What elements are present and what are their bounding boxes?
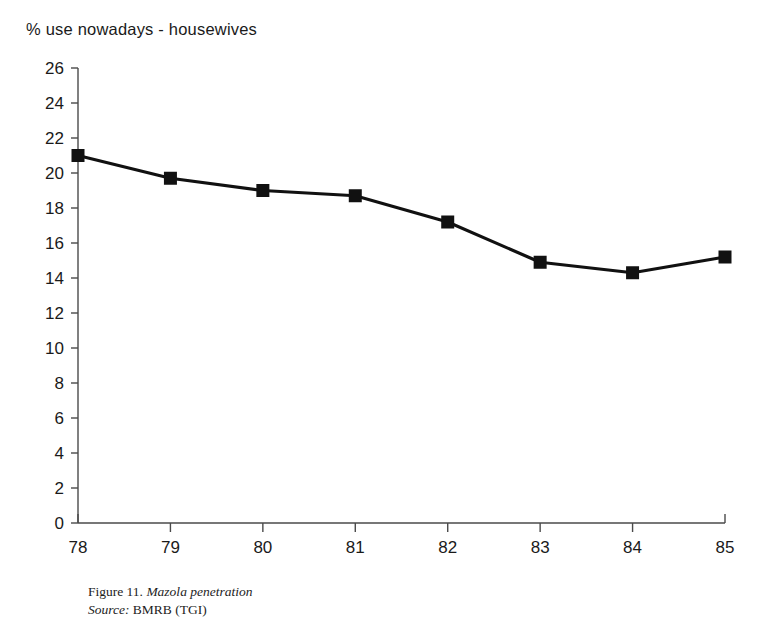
x-axis-tick-label: 79 (161, 538, 180, 557)
y-axis-tick-label: 20 (45, 164, 64, 183)
y-axis: 02468101214161820222426 (45, 59, 78, 533)
y-axis-tick-label: 26 (45, 59, 64, 78)
x-axis-tick-label: 82 (438, 538, 457, 557)
x-axis-tick-label: 83 (531, 538, 550, 557)
y-axis-tick-label: 8 (55, 374, 64, 393)
y-axis-tick-label: 16 (45, 234, 64, 253)
caption-figure-line: Figure 11. Mazola penetration (88, 583, 253, 601)
y-axis-tick-label: 22 (45, 129, 64, 148)
plot-area: 02468101214161820222426 7879808182838485 (0, 0, 767, 628)
x-axis-tick-label: 84 (623, 538, 642, 557)
figure-page: % use nowadays - housewives 024681012141… (0, 0, 767, 628)
y-axis-tick-label: 0 (55, 514, 64, 533)
x-axis: 7879808182838485 (69, 514, 735, 557)
caption-source-line: Source: BMRB (TGI) (88, 601, 253, 619)
y-axis-tick-label: 18 (45, 199, 64, 218)
y-axis-tick-label: 10 (45, 339, 64, 358)
y-axis-tick-label: 24 (45, 94, 64, 113)
data-point-marker (256, 184, 269, 197)
x-axis-tick-label: 85 (716, 538, 735, 557)
caption-source-value: BMRB (TGI) (133, 602, 207, 617)
y-axis-tick-label: 6 (55, 409, 64, 428)
data-point-marker (72, 149, 85, 162)
data-series (72, 149, 732, 279)
data-point-marker (534, 256, 547, 269)
x-axis-tick-label: 78 (69, 538, 88, 557)
caption-source-label: Source: (88, 602, 129, 617)
data-point-marker (349, 189, 362, 202)
data-point-marker (626, 266, 639, 279)
figure-caption: Figure 11. Mazola penetration Source: BM… (88, 583, 253, 619)
data-point-marker (164, 172, 177, 185)
caption-figure-title: Mazola penetration (146, 584, 252, 599)
data-point-marker (441, 216, 454, 229)
y-axis-tick-label: 2 (55, 479, 64, 498)
y-axis-tick-label: 14 (45, 269, 64, 288)
data-point-marker (719, 251, 732, 264)
y-axis-tick-label: 4 (55, 444, 64, 463)
x-axis-tick-label: 81 (346, 538, 365, 557)
caption-figure-label: Figure 11. (88, 584, 143, 599)
x-axis-tick-label: 80 (253, 538, 272, 557)
line-chart-svg: 02468101214161820222426 7879808182838485 (0, 0, 767, 628)
y-axis-tick-label: 12 (45, 304, 64, 323)
